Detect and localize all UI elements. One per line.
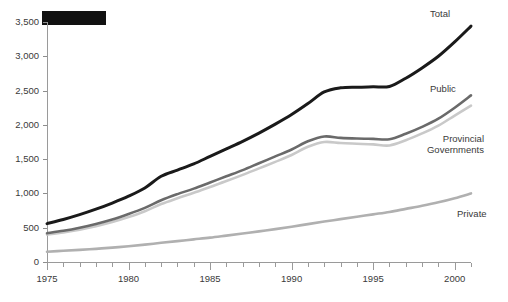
series-label-total: Total [430,8,450,19]
series-line-total [47,26,471,223]
series-label-provincial-line1: Provincial [398,133,484,144]
series-line-provincial-governments [47,106,471,235]
line-chart: 05001,0001,5002,0002,5003,0003,500 19751… [0,0,508,302]
series-label-private: Private [457,208,487,219]
series-label-provincial-line2: Governments [398,144,484,155]
series-label-provincial: Provincial Governments [398,133,484,155]
series-line-public [47,95,471,233]
series-label-public: Public [430,83,456,94]
